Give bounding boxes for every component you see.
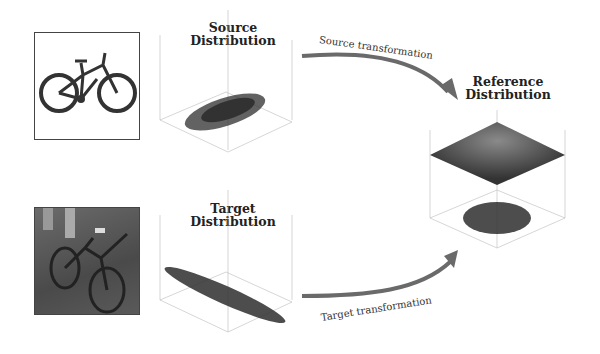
reference-points <box>463 202 531 234</box>
diagram-canvas <box>0 0 600 354</box>
source-points <box>181 86 270 139</box>
reference-surface <box>430 122 565 185</box>
target-points <box>161 260 289 330</box>
source-scatter-plot <box>160 10 292 152</box>
target-transformation-arrow <box>302 262 450 296</box>
